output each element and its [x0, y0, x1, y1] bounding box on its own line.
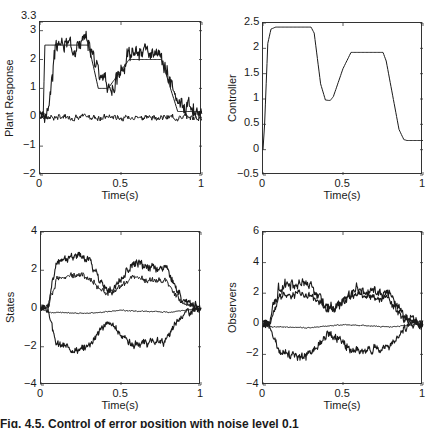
- plot-area-controller: [263, 23, 423, 175]
- plot-area-observers: [263, 232, 423, 385]
- series-z2: [263, 290, 423, 329]
- y-tick-label: 2: [253, 41, 259, 52]
- y-tick-label: 1: [30, 81, 36, 92]
- series-z1: [263, 279, 423, 330]
- axes-controller: [262, 22, 422, 174]
- plot-area-states: [41, 232, 201, 385]
- x-tick-label: 0.5: [335, 388, 350, 399]
- series-u: [263, 27, 423, 150]
- x-tick-label: 1: [419, 178, 425, 189]
- y-tick-label: 0: [30, 110, 36, 121]
- y-tick-label: 0: [253, 317, 259, 328]
- y-tick-label: −1: [23, 139, 36, 150]
- y-tick-label: 2: [31, 263, 37, 274]
- y-tick-label: 0: [253, 143, 259, 154]
- y-tick-label: −0.5: [237, 168, 259, 179]
- y-tick-label: 2: [253, 286, 259, 297]
- series-x3: [41, 308, 201, 313]
- axes-states: [40, 231, 200, 384]
- y-tick-label: 3: [30, 24, 36, 35]
- axes-observers: [262, 231, 422, 384]
- y-tick-label: −4: [24, 378, 37, 389]
- y-tick-label: −2: [23, 168, 36, 179]
- y-tick-label: 3.3: [21, 10, 36, 21]
- figure-caption: Fig. 4.5. Control of error position with…: [0, 417, 299, 428]
- series-z3: [263, 323, 423, 328]
- x-tick-label: 1: [419, 388, 425, 399]
- y-axis-label: Plant Response: [3, 59, 15, 137]
- series-reference: [40, 45, 202, 117]
- x-tick-label: 0: [259, 388, 265, 399]
- series-response: [40, 31, 202, 122]
- y-tick-label: 2: [30, 53, 36, 64]
- y-tick-label: 4: [253, 256, 259, 267]
- plot-area-plant: [40, 22, 202, 175]
- y-tick-label: 2.5: [244, 16, 259, 27]
- x-tick-label: 0.5: [113, 388, 128, 399]
- x-axis-label: Time(s): [324, 189, 361, 201]
- y-axis-label: Observers: [226, 282, 238, 333]
- y-tick-label: 0: [31, 302, 37, 313]
- x-axis-label: Time(s): [324, 399, 361, 411]
- y-tick-label: −4: [246, 378, 259, 389]
- y-tick-label: 1: [253, 92, 259, 103]
- x-tick-label: 1: [198, 178, 204, 189]
- y-tick-label: −2: [246, 347, 259, 358]
- series-x4: [41, 305, 201, 354]
- y-tick-label: 0.5: [244, 117, 259, 128]
- x-tick-label: 0: [36, 178, 42, 189]
- series-x1: [41, 252, 201, 312]
- x-tick-label: 1: [197, 388, 203, 399]
- y-axis-label: States: [4, 292, 16, 323]
- y-tick-label: 1.5: [244, 67, 259, 78]
- x-axis-label: Time(s): [102, 189, 139, 201]
- x-tick-label: 0: [37, 388, 43, 399]
- x-axis-label: Time(s): [102, 399, 139, 411]
- y-axis-label: Controller: [226, 74, 238, 122]
- axes-plant: [39, 21, 201, 174]
- x-tick-label: 0.5: [335, 178, 350, 189]
- y-tick-label: 6: [253, 225, 259, 236]
- x-tick-label: 0.5: [113, 178, 128, 189]
- y-tick-label: −2: [24, 340, 37, 351]
- y-tick-label: 4: [31, 225, 37, 236]
- x-tick-label: 0: [259, 178, 265, 189]
- series-error: [40, 114, 202, 121]
